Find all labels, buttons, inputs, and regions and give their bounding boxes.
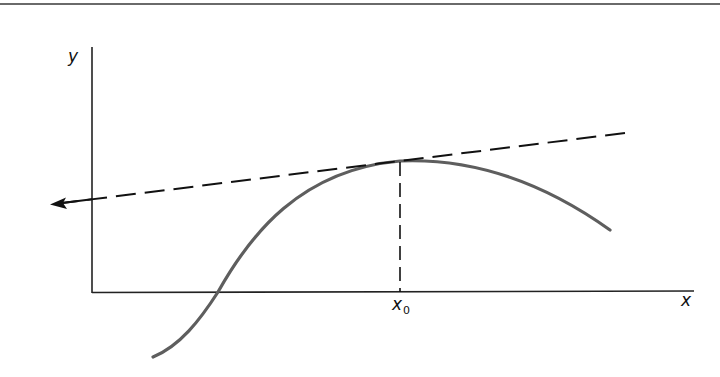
y-axis-label: y <box>67 46 79 66</box>
tangent-line <box>62 133 625 203</box>
tangent-diagram: y x x 0 <box>0 0 720 377</box>
x-axis <box>92 291 694 293</box>
function-curve <box>153 161 610 357</box>
x0-label: x <box>391 294 403 314</box>
x0-subscript: 0 <box>403 304 410 317</box>
tangent-arrow-shaft <box>62 199 92 203</box>
x-axis-label: x <box>680 290 692 310</box>
